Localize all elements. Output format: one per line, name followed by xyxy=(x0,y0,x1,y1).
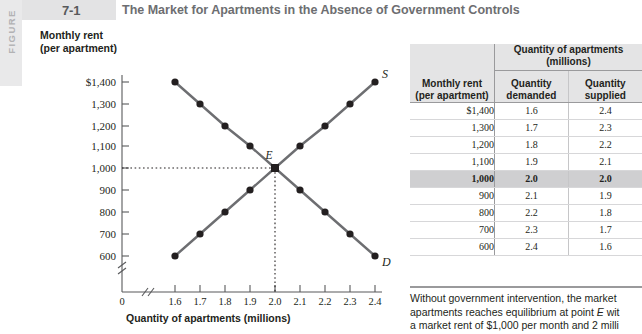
table-cell-demanded: 2.2 xyxy=(495,205,569,222)
table-row: 1,3001.72.3 xyxy=(410,120,642,137)
equilibrium-point-marker xyxy=(271,164,279,172)
table-cell-supplied: 2.4 xyxy=(568,103,642,120)
equilibrium-label: E xyxy=(264,149,272,161)
table-cell-supplied: 2.2 xyxy=(568,137,642,154)
caption-line-1: Without government intervention, the mar… xyxy=(410,292,617,304)
x-tick-label-1-6: 1.6 xyxy=(168,296,181,307)
y-tick-label-800: 800 xyxy=(100,206,117,218)
table-cell-demanded: 2.3 xyxy=(495,222,569,239)
y-tick-label-1100: 1,100 xyxy=(91,140,116,152)
table-cell-rent: 900 xyxy=(410,188,495,205)
figure-title: The Market for Apartments in the Absence… xyxy=(122,3,520,17)
y-tick-label-700: 700 xyxy=(100,228,117,240)
demand-curve-label: D xyxy=(381,255,391,269)
table-cell-rent: 1,300 xyxy=(410,120,495,137)
chart-panel: Monthly rent (per apartment) Quantity of… xyxy=(22,20,402,334)
table-cell-rent: $1,400 xyxy=(410,103,495,120)
table-header-monthly-rent: Monthly rent (per apartment) xyxy=(410,44,495,103)
table-cell-rent: 800 xyxy=(410,205,495,222)
table-row: 1,1001.92.1 xyxy=(410,154,642,171)
table-cell-supplied: 2.3 xyxy=(568,120,642,137)
figure-spine-label: FIGURE xyxy=(6,4,17,60)
table-header-monthly-rent-sub: (per apartment) xyxy=(415,90,488,101)
table-cell-rent: 1,000 xyxy=(410,171,495,188)
x-tick-label-2-2: 2.2 xyxy=(318,296,331,307)
y-tick-label-1200: 1,200 xyxy=(91,120,116,132)
table-cell-supplied: 1.9 xyxy=(568,188,642,205)
table-row: 9002.11.9 xyxy=(410,188,642,205)
y-tick-label-900: 900 xyxy=(100,184,117,196)
figure-title-bar: 7-1 The Market for Apartments in the Abs… xyxy=(22,0,621,20)
table-header-monthly-rent-main: Monthly rent xyxy=(422,78,482,89)
table-header-quantity-supplied: Quantity supplied xyxy=(568,71,642,103)
y-tick-label-600: 600 xyxy=(100,250,117,262)
caption-equilibrium-point: E xyxy=(597,306,604,318)
x-tick-label-1-8: 1.8 xyxy=(218,296,231,307)
quantity-table-panel: Monthly rent (per apartment) Quantity of… xyxy=(410,44,642,256)
x-tick-label-2-1: 2.1 xyxy=(293,296,306,307)
table-cell-demanded: 1.6 xyxy=(495,103,569,120)
table-header-quantity-supplied-main: Quantity xyxy=(585,78,626,89)
table-row: 7002.31.7 xyxy=(410,222,642,239)
supply-demand-plot: $1,400 1,300 1,200 1,100 1,000 900 800 7… xyxy=(22,20,402,320)
x-tick-label-2-4: 2.4 xyxy=(368,296,382,307)
table-cell-supplied: 1.7 xyxy=(568,222,642,239)
table-cell-rent: 700 xyxy=(410,222,495,239)
table-cell-supplied: 2.0 xyxy=(568,171,642,188)
table-cell-rent: 1,200 xyxy=(410,137,495,154)
table-row: 8002.21.8 xyxy=(410,205,642,222)
y-tick-label-1300: 1,300 xyxy=(91,98,116,110)
table-header-quantity-supplied-sub: supplied xyxy=(585,90,626,101)
supply-demand-table: Monthly rent (per apartment) Quantity of… xyxy=(410,44,642,256)
table-header-row-group: Monthly rent (per apartment) Quantity of… xyxy=(410,44,642,71)
caption-line-2-a: apartments reaches equilibrium at point xyxy=(410,306,597,318)
table-cell-demanded: 2.4 xyxy=(495,239,569,256)
table-row: $1,4001.62.4 xyxy=(410,103,642,120)
y-axis-ticks xyxy=(122,82,129,256)
y-tick-label-1400: $1,400 xyxy=(86,76,117,88)
table-cell-rent: 600 xyxy=(410,239,495,256)
table-cell-supplied: 1.8 xyxy=(568,205,642,222)
table-cell-supplied: 1.6 xyxy=(568,239,642,256)
table-body: $1,4001.62.41,3001.72.31,2001.82.21,1001… xyxy=(410,103,642,256)
figure-spine: FIGURE xyxy=(0,0,22,86)
table-header-quantity-demanded-sub: demanded xyxy=(506,90,556,101)
table-bottom-rule xyxy=(410,286,642,288)
figure-caption: Without government intervention, the mar… xyxy=(410,292,642,333)
table-header-quantity-demanded: Quantity demanded xyxy=(495,71,569,103)
caption-line-2-b: wit xyxy=(604,306,620,318)
table-cell-supplied: 2.1 xyxy=(568,154,642,171)
table-header-quantity-group-main: Quantity of apartments xyxy=(514,44,623,55)
caption-line-3: a market rent of $1,000 per month and 2 … xyxy=(410,319,619,331)
table-cell-demanded: 1.8 xyxy=(495,137,569,154)
y-tick-label-1000: 1,000 xyxy=(91,162,116,174)
table-header-quantity-demanded-main: Quantity xyxy=(511,78,552,89)
figure-number: 7-1 xyxy=(62,3,80,18)
table-cell-demanded: 1.7 xyxy=(495,120,569,137)
table-cell-demanded: 1.9 xyxy=(495,154,569,171)
table-header-quantity-group: Quantity of apartments (millions) xyxy=(495,44,642,71)
supply-curve-label: S xyxy=(382,67,388,81)
x-tick-label-1-9: 1.9 xyxy=(243,296,256,307)
origin-label: 0 xyxy=(119,296,124,307)
table-head: Monthly rent (per apartment) Quantity of… xyxy=(410,44,642,103)
x-tick-label-2-3: 2.3 xyxy=(343,296,356,307)
table-header-quantity-group-sub: (millions) xyxy=(546,56,590,67)
table-cell-demanded: 2.1 xyxy=(495,188,569,205)
table-cell-demanded: 2.0 xyxy=(495,171,569,188)
x-tick-label-2-0: 2.0 xyxy=(268,296,281,307)
x-tick-label-1-7: 1.7 xyxy=(193,296,206,307)
table-row: 6002.41.6 xyxy=(410,239,642,256)
table-cell-rent: 1,100 xyxy=(410,154,495,171)
table-row: 1,0002.02.0 xyxy=(410,171,642,188)
table-row: 1,2001.82.2 xyxy=(410,137,642,154)
